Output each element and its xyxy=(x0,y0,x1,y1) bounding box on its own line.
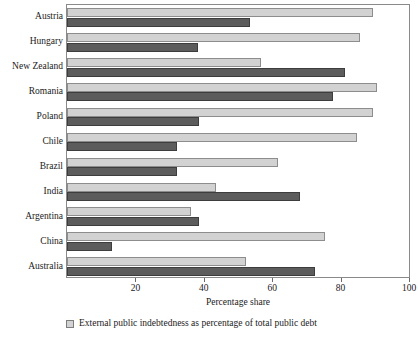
bar-secondary-share xyxy=(67,192,300,201)
bar-group xyxy=(67,254,409,279)
y-axis-labels: AustriaHungaryNew ZealandRomaniaPolandCh… xyxy=(0,4,63,278)
chart-legend: External public indebtedness as percenta… xyxy=(66,318,317,329)
bar-external-share xyxy=(67,33,360,42)
y-axis-tick-label: Hungary xyxy=(1,36,63,46)
x-axis-tick-mark xyxy=(135,278,136,282)
bar-external-share xyxy=(67,207,191,216)
bar-group xyxy=(67,130,409,155)
y-axis-tick-label: China xyxy=(1,236,63,246)
y-axis-tick-label: Austria xyxy=(1,11,63,21)
bar-external-share xyxy=(67,183,216,192)
x-axis-tick-label: 60 xyxy=(252,283,292,294)
y-axis-tick-label: New Zealand xyxy=(1,61,63,71)
x-axis-tick-mark xyxy=(272,278,273,282)
x-axis-title: Percentage share xyxy=(66,296,410,308)
bar-group xyxy=(67,55,409,80)
y-axis-tick-label: Romania xyxy=(1,86,63,96)
bar-group xyxy=(67,179,409,204)
bar-group xyxy=(67,30,409,55)
bar-group xyxy=(67,5,409,30)
bar-external-share xyxy=(67,257,246,266)
bar-group xyxy=(67,204,409,229)
bar-secondary-share xyxy=(67,92,333,101)
y-axis-tick-label: India xyxy=(1,186,63,196)
bar-secondary-share xyxy=(67,142,177,151)
bar-secondary-share xyxy=(67,68,345,77)
x-axis-tick-label: 100 xyxy=(389,283,418,294)
x-axis-tick-label: 40 xyxy=(184,283,224,294)
bar-secondary-share xyxy=(67,117,199,126)
bar-group xyxy=(67,105,409,130)
bar-secondary-share xyxy=(67,18,250,27)
y-axis-tick-label: Brazil xyxy=(1,161,63,171)
plot-area xyxy=(66,4,410,278)
bar-secondary-share xyxy=(67,267,315,276)
bar-external-share xyxy=(67,58,261,67)
bar-secondary-share xyxy=(67,242,112,251)
bar-group xyxy=(67,154,409,179)
bar-group xyxy=(67,80,409,105)
bar-secondary-share xyxy=(67,43,198,52)
x-axis-tick-mark xyxy=(204,278,205,282)
legend-swatch-icon xyxy=(66,320,74,328)
y-axis-tick-label: Australia xyxy=(1,261,63,271)
bar-secondary-share xyxy=(67,217,199,226)
x-axis-tick-mark xyxy=(409,278,410,282)
bar-external-share xyxy=(67,232,325,241)
bar-external-share xyxy=(67,108,373,117)
y-axis-tick-label: Poland xyxy=(1,111,63,121)
x-axis-tick-label: 20 xyxy=(115,283,155,294)
bar-external-share xyxy=(67,83,377,92)
bar-secondary-share xyxy=(67,167,177,176)
y-axis-tick-label: Chile xyxy=(1,136,63,146)
x-axis-tick-label: 80 xyxy=(321,283,361,294)
y-axis-tick-label: Argentina xyxy=(1,211,63,221)
bar-group xyxy=(67,229,409,254)
legend-item-label: External public indebtedness as percenta… xyxy=(79,318,317,329)
bar-chart: AustriaHungaryNew ZealandRomaniaPolandCh… xyxy=(0,0,418,338)
bars-layer xyxy=(67,5,409,277)
bar-external-share xyxy=(67,8,373,17)
bar-external-share xyxy=(67,133,357,142)
bar-external-share xyxy=(67,158,278,167)
x-axis-tick-mark xyxy=(341,278,342,282)
